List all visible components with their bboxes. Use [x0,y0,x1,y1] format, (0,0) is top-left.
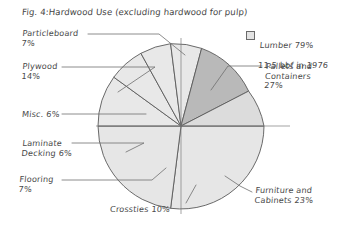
slice-label-laminate-decking: Laminate Decking 6% [21,139,73,158]
slice-label-particleboard: Particleboard 7% [21,29,79,48]
figure-canvas: Fig. 4:Hardwood Use (excluding hardwood … [0,0,349,229]
slice-label-plywood: Plywood 14% [21,62,58,81]
slice-label-pallets-and-containers: Pallets and Containers 27% [264,62,313,91]
slice-label-misc: Misc. 6% [22,110,60,120]
slice-label-crossties: Crossties 10% [110,205,171,215]
pie-slice-furniture-and-cabinets[interactable] [98,126,181,208]
slice-label-flooring: Flooring 7% [18,175,54,194]
pie-slice-pallets-and-containers[interactable] [171,126,264,209]
slice-label-furniture-and-cabinets: Furniture and Cabinets 23% [254,186,314,205]
